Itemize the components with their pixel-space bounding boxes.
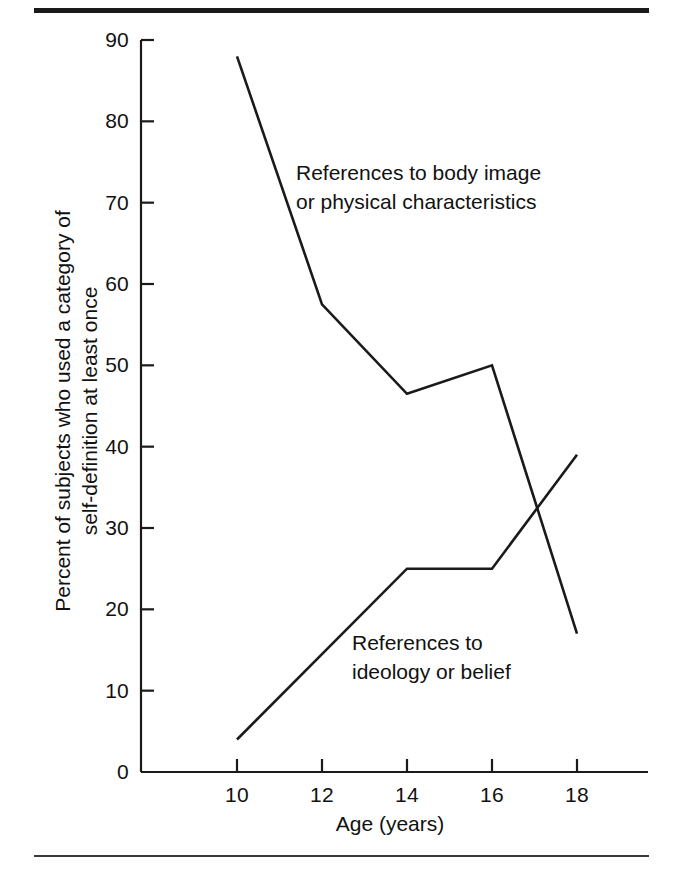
annotation-body-image: References to body image or physical cha… bbox=[296, 158, 541, 216]
x-axis-title: Age (years) bbox=[240, 812, 540, 836]
annotation-ideology: References to ideology or belief bbox=[352, 628, 511, 686]
x-axis-tick-label: 18 bbox=[552, 784, 602, 805]
x-axis-ticks bbox=[237, 759, 577, 772]
series-line-ideology bbox=[237, 455, 577, 740]
x-axis-tick-label: 16 bbox=[467, 784, 517, 805]
x-axis-tick-label: 14 bbox=[382, 784, 432, 805]
y-axis-tick-label: 90 bbox=[83, 29, 129, 50]
y-axis-tick-label: 80 bbox=[83, 110, 129, 131]
y-axis-title: Percent of subjects who used a category … bbox=[49, 151, 103, 671]
x-axis-tick-label: 12 bbox=[297, 784, 347, 805]
series-line-body-image bbox=[237, 56, 577, 633]
y-axis-tick-label: 0 bbox=[83, 761, 129, 782]
x-axis-tick-label: 10 bbox=[212, 784, 262, 805]
y-axis-title-line2: self-definition at least once bbox=[76, 151, 103, 671]
y-axis-title-line1: Percent of subjects who used a category … bbox=[49, 151, 76, 671]
y-axis-tick-label: 10 bbox=[83, 680, 129, 701]
y-axis-ticks bbox=[141, 40, 154, 691]
figure-container: 0102030405060708090 1012141618 Age (year… bbox=[0, 0, 673, 882]
